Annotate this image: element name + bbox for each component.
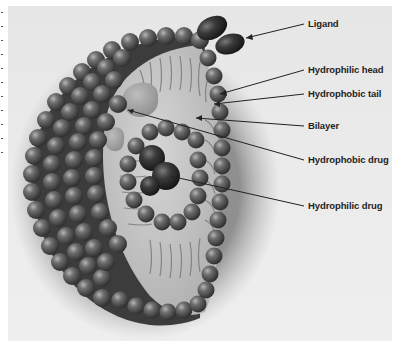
label-ligand: Ligand xyxy=(308,18,339,29)
edge-mark xyxy=(1,12,3,13)
edge-mark xyxy=(1,82,3,83)
label-hydrophobic-drug: Hydrophobic drug xyxy=(308,154,389,165)
liposome-illustration xyxy=(0,0,398,349)
label-hydrophilic-drug: Hydrophilic drug xyxy=(308,200,382,211)
edge-mark xyxy=(1,124,3,125)
label-bilayer: Bilayer xyxy=(308,120,339,131)
edge-mark xyxy=(1,54,3,55)
edge-mark xyxy=(1,26,3,27)
label-hydrophilic-head: Hydrophilic head xyxy=(308,64,383,75)
edge-mark xyxy=(1,110,3,111)
edge-mark xyxy=(1,152,3,153)
edge-mark xyxy=(1,96,3,97)
label-hydrophobic-tail: Hydrophobic tail xyxy=(308,88,381,99)
edge-mark xyxy=(1,40,3,41)
edge-mark xyxy=(1,68,3,69)
edge-mark xyxy=(1,138,3,139)
